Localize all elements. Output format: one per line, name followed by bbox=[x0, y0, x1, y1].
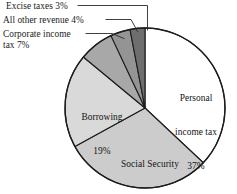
slice-label-borrowing-value: 19% bbox=[68, 146, 136, 157]
leader-line-excise-taxes bbox=[78, 6, 148, 31]
pie-chart-figure: Excise taxes 3% All other revenue 4% Cor… bbox=[0, 0, 237, 194]
slice-label-social-security-payroll-tax-line2: payroll tax bbox=[107, 193, 193, 194]
slice-label-borrowing: Borrowing 19% bbox=[68, 89, 136, 180]
callout-label-corporate-income-tax-line1: Corporate income bbox=[3, 29, 71, 40]
callout-label-all-other-revenue: All other revenue 4% bbox=[3, 15, 84, 26]
callout-label-excise-taxes: Excise taxes 3% bbox=[6, 1, 68, 12]
slice-label-borrowing-line1: Borrowing bbox=[68, 112, 136, 123]
slice-label-personal-income-tax-line1: Personal bbox=[160, 93, 232, 104]
callout-label-corporate-income-tax-line2: tax 7% bbox=[3, 40, 29, 51]
